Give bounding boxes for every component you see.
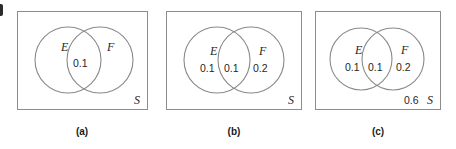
right-only-value-b: 0.2 bbox=[253, 63, 268, 74]
circle-f-c bbox=[362, 28, 424, 90]
circle-e-c bbox=[330, 28, 392, 90]
venn-circles-b bbox=[166, 11, 302, 110]
sample-space-label-b: S bbox=[288, 94, 294, 106]
venn-panel-c: E F 0.1 0.1 0.2 0.6 S bbox=[315, 11, 441, 110]
right-only-value-c: 0.2 bbox=[396, 62, 411, 73]
sample-space-label-c: S bbox=[427, 94, 433, 106]
circle-e-a bbox=[35, 27, 101, 93]
intersection-value-a: 0.1 bbox=[73, 58, 88, 69]
intersection-value-b: 0.1 bbox=[224, 63, 239, 74]
venn-panel-b: E F 0.1 0.1 0.2 S bbox=[166, 11, 302, 110]
left-only-value-b: 0.1 bbox=[200, 63, 215, 74]
circle-e-b bbox=[184, 27, 250, 93]
caption-b: (b) bbox=[204, 126, 264, 137]
set-label-e-b: E bbox=[210, 45, 217, 57]
set-label-f-a: F bbox=[107, 41, 114, 53]
set-label-e-c: E bbox=[355, 44, 362, 56]
set-label-f-b: F bbox=[259, 45, 266, 57]
intersection-value-c: 0.1 bbox=[368, 62, 383, 73]
circle-f-b bbox=[218, 27, 284, 93]
caption-c: (c) bbox=[348, 126, 408, 137]
edge-ink-artifact bbox=[0, 4, 3, 16]
left-only-value-c: 0.1 bbox=[345, 62, 360, 73]
sample-space-label-a: S bbox=[134, 94, 140, 106]
outside-value-c: 0.6 bbox=[404, 95, 419, 106]
set-label-f-c: F bbox=[401, 44, 408, 56]
venn-panel-a: E F 0.1 S bbox=[17, 11, 148, 110]
venn-diagram-figure: E F 0.1 S E F 0.1 0.1 0.2 S E F 0.1 0.1 … bbox=[0, 0, 456, 149]
set-label-e-a: E bbox=[61, 41, 68, 53]
caption-a: (a) bbox=[52, 126, 112, 137]
